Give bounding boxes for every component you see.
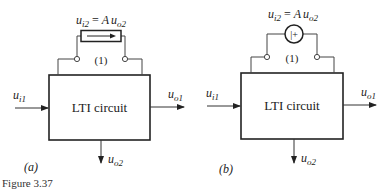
input-label: ui1 — [206, 86, 219, 102]
box-label: LTI circuit — [72, 100, 128, 115]
port-wire-left — [58, 59, 74, 75]
output2-label: uo2 — [108, 152, 124, 168]
terminal-left — [264, 54, 269, 59]
panel-a: LTI circuit (1) ui2 = Auo2 ui1 uo1 — [13, 13, 184, 174]
panel-tag: (b) — [219, 162, 233, 176]
source-equation: ui2 = Auo2 — [76, 13, 127, 29]
box-label: LTI circuit — [264, 98, 320, 113]
port-wire-right — [320, 57, 334, 73]
port-wire-left — [251, 57, 264, 73]
source-wire-right — [303, 34, 317, 55]
port-label: (1) — [286, 52, 299, 65]
panel-b: LTI circuit (1) |+ ui2 = Auo2 ui1 uo1 uo… — [206, 7, 376, 176]
source-wire-left — [267, 34, 285, 55]
current-source-icon — [81, 31, 121, 42]
terminal-right — [122, 56, 127, 61]
output2-label: uo2 — [301, 151, 317, 167]
figure-caption: Figure 3.37 — [2, 177, 53, 189]
figure-canvas: LTI circuit (1) ui2 = Auo2 ui1 uo1 — [0, 0, 391, 191]
voltage-source-icon: |+ — [285, 25, 303, 43]
panel-tag: (a) — [24, 160, 38, 174]
input-label: ui1 — [13, 88, 26, 104]
terminal-left — [74, 56, 79, 61]
source-equation: ui2 = Auo2 — [268, 7, 319, 23]
terminal-right — [314, 54, 319, 59]
port-label: (1) — [95, 54, 108, 67]
output1-label: uo1 — [168, 87, 183, 103]
output1-label: uo1 — [361, 85, 376, 101]
svg-text:|+: |+ — [290, 29, 298, 40]
port-wire-right — [128, 59, 142, 75]
